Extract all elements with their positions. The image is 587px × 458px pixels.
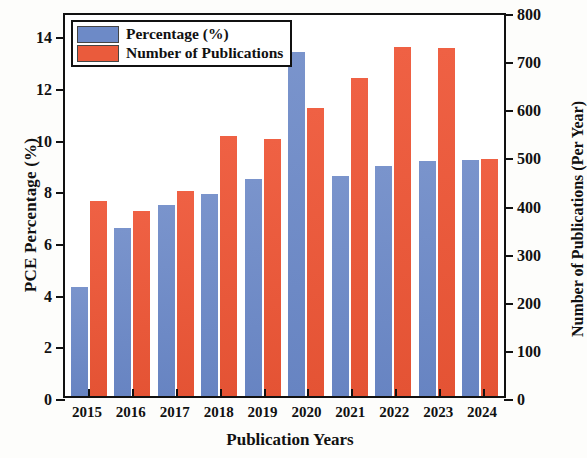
tick-mark-right bbox=[504, 255, 513, 257]
tick-mark-left bbox=[56, 347, 65, 349]
bar-group bbox=[241, 15, 285, 396]
bar-percentage bbox=[419, 161, 436, 396]
tick-label-right: 200 bbox=[517, 295, 541, 313]
legend-item-publications: Number of Publications bbox=[77, 44, 283, 62]
tick-mark-right bbox=[504, 399, 513, 401]
tick-label-right: 100 bbox=[517, 343, 541, 361]
tick-mark-right bbox=[504, 110, 513, 112]
bar-publications bbox=[90, 201, 107, 396]
tick-mark-x bbox=[351, 389, 353, 396]
tick-mark-left bbox=[56, 296, 65, 298]
bar-group bbox=[111, 15, 155, 396]
tick-label-right: 700 bbox=[517, 54, 541, 72]
tick-mark-right bbox=[504, 158, 513, 160]
bars-container bbox=[65, 15, 504, 396]
tick-label-x: 2015 bbox=[72, 404, 102, 421]
bar-percentage bbox=[71, 287, 88, 396]
bar-percentage bbox=[462, 160, 479, 396]
bar-group bbox=[415, 15, 459, 396]
bar-group bbox=[459, 15, 503, 396]
tick-label-left: 0 bbox=[44, 391, 52, 409]
legend-swatch-red bbox=[77, 45, 119, 62]
plot-area: 02468101214 0100200300400500600700800 Pe… bbox=[63, 13, 506, 398]
tick-label-right: 500 bbox=[517, 150, 541, 168]
tick-label-x: 2017 bbox=[160, 404, 190, 421]
tick-mark-left bbox=[56, 399, 65, 401]
tick-label-x: 2020 bbox=[291, 404, 321, 421]
tick-mark-x bbox=[88, 389, 90, 396]
legend-label-percentage: Percentage (%) bbox=[126, 25, 229, 43]
tick-label-x: 2024 bbox=[467, 404, 497, 421]
bar-percentage bbox=[114, 228, 131, 396]
tick-mark-left bbox=[56, 192, 65, 194]
tick-mark-left bbox=[56, 141, 65, 143]
tick-label-left: 4 bbox=[44, 288, 52, 306]
bar-publications bbox=[481, 159, 498, 396]
bar-percentage bbox=[375, 166, 392, 396]
y-axis-left-title: PCE Percentage (%) bbox=[21, 85, 41, 345]
tick-label-right: 800 bbox=[517, 6, 541, 24]
chart-legend: Percentage (%) Number of Publications bbox=[71, 20, 292, 67]
tick-label-x: 2022 bbox=[379, 404, 409, 421]
tick-label-right: 600 bbox=[517, 102, 541, 120]
tick-mark-x bbox=[483, 389, 485, 396]
tick-mark-left bbox=[56, 89, 65, 91]
tick-label-x: 2021 bbox=[335, 404, 365, 421]
bar-group bbox=[372, 15, 416, 396]
bar-publications bbox=[264, 139, 281, 396]
tick-mark-x bbox=[220, 389, 222, 396]
bar-percentage bbox=[288, 52, 305, 396]
bar-group bbox=[285, 15, 329, 396]
bar-publications bbox=[177, 191, 194, 396]
tick-mark-left bbox=[56, 244, 65, 246]
legend-label-publications: Number of Publications bbox=[126, 44, 283, 62]
bar-percentage bbox=[332, 176, 349, 396]
bar-percentage bbox=[245, 179, 262, 396]
tick-label-left: 14 bbox=[36, 29, 52, 47]
bar-publications bbox=[220, 136, 237, 396]
tick-mark-x bbox=[264, 389, 266, 396]
tick-mark-x bbox=[132, 389, 134, 396]
tick-mark-x bbox=[307, 389, 309, 396]
tick-mark-right bbox=[504, 14, 513, 16]
bar-publications bbox=[438, 48, 455, 396]
tick-mark-x bbox=[176, 389, 178, 396]
tick-label-x: 2018 bbox=[204, 404, 234, 421]
tick-mark-right bbox=[504, 351, 513, 353]
bar-publications bbox=[394, 47, 411, 396]
bar-group bbox=[198, 15, 242, 396]
tick-label-right: 300 bbox=[517, 247, 541, 265]
tick-mark-right bbox=[504, 303, 513, 305]
y-axis-right-title: Number of Publications (Per Year) bbox=[569, 39, 587, 399]
tick-mark-x bbox=[395, 389, 397, 396]
bar-publications bbox=[351, 78, 368, 396]
bar-group bbox=[67, 15, 111, 396]
tick-label-x: 2019 bbox=[248, 404, 278, 421]
tick-label-right: 0 bbox=[517, 391, 525, 409]
tick-label-x: 2016 bbox=[116, 404, 146, 421]
tick-mark-right bbox=[504, 62, 513, 64]
tick-label-left: 10 bbox=[36, 133, 52, 151]
legend-swatch-blue bbox=[77, 26, 119, 43]
tick-label-left: 2 bbox=[44, 339, 52, 357]
tick-label-left: 12 bbox=[36, 81, 52, 99]
tick-label-x: 2023 bbox=[423, 404, 453, 421]
x-axis-title: Publication Years bbox=[55, 430, 525, 450]
tick-label-left: 6 bbox=[44, 236, 52, 254]
tick-label-left: 8 bbox=[44, 184, 52, 202]
tick-mark-right bbox=[504, 207, 513, 209]
bar-group bbox=[154, 15, 198, 396]
tick-label-right: 400 bbox=[517, 199, 541, 217]
tick-mark-left bbox=[56, 37, 65, 39]
bar-publications bbox=[133, 211, 150, 396]
legend-item-percentage: Percentage (%) bbox=[77, 25, 283, 43]
bar-percentage bbox=[201, 194, 218, 396]
bar-percentage bbox=[158, 205, 175, 396]
bar-group bbox=[328, 15, 372, 396]
tick-mark-x bbox=[439, 389, 441, 396]
bar-publications bbox=[307, 108, 324, 396]
